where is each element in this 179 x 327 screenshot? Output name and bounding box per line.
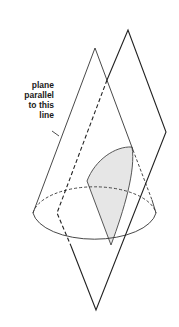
annotation-leader (52, 131, 59, 136)
cone-left-generator (33, 48, 95, 213)
plane-parallel-annotation: plane parallel to this line (24, 80, 54, 120)
annotation-line-3: to this (24, 100, 54, 110)
annotation-line-1: plane (24, 80, 54, 90)
annotation-line-2: parallel (24, 90, 54, 100)
cone-right-generator-lower (152, 200, 156, 213)
diagram-canvas: plane parallel to this line (0, 0, 179, 327)
cone-base-front (33, 213, 156, 239)
annotation-line-4: line (24, 110, 54, 120)
parabola-section (87, 147, 133, 245)
cone-plane-figure (0, 0, 179, 327)
